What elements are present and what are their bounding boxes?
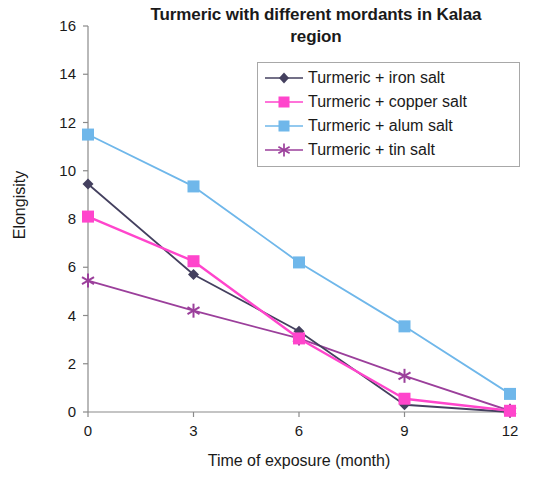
legend-marker-diamond-icon <box>263 68 305 88</box>
y-axis-tick-label: 4 <box>48 307 76 324</box>
chart-legend: Turmeric + iron salt Turmeric + copper s… <box>257 62 520 167</box>
data-point-marker <box>293 332 305 344</box>
legend-item-copper-salt: Turmeric + copper salt <box>263 90 514 114</box>
series-turmeric-alum-salt <box>82 129 516 400</box>
data-point-marker <box>188 304 200 318</box>
x-axis-tick-label: 12 <box>490 422 530 439</box>
y-axis-tick-label: 14 <box>48 65 76 82</box>
data-point-marker <box>188 255 200 267</box>
y-axis-tick-label: 10 <box>48 162 76 179</box>
legend-item-alum-salt: Turmeric + alum salt <box>263 114 514 138</box>
data-point-marker <box>82 211 94 223</box>
y-axis-tick-label: 16 <box>48 17 76 34</box>
legend-label-copper-salt: Turmeric + copper salt <box>305 93 467 111</box>
data-point-marker <box>82 274 94 288</box>
series-line <box>88 217 510 411</box>
data-point-marker <box>399 393 411 405</box>
y-axis-tick-label: 12 <box>48 114 76 131</box>
series-turmeric-tin-salt <box>82 274 516 418</box>
x-axis-tick-label: 6 <box>279 422 319 439</box>
data-point-marker <box>293 256 305 268</box>
series-turmeric-copper-salt <box>82 211 516 417</box>
data-point-marker <box>504 388 516 400</box>
x-axis-tick-label: 3 <box>174 422 214 439</box>
data-point-marker <box>188 180 200 192</box>
data-point-marker <box>399 320 411 332</box>
legend-label-tin-salt: Turmeric + tin salt <box>305 141 435 159</box>
legend-item-iron-salt: Turmeric + iron salt <box>263 66 514 90</box>
x-axis-tick-label: 9 <box>385 422 425 439</box>
x-axis-tick-label: 0 <box>68 422 108 439</box>
data-point-marker <box>399 369 411 383</box>
data-point-marker <box>504 405 516 417</box>
legend-label-alum-salt: Turmeric + alum salt <box>305 117 453 135</box>
y-axis-tick-label: 6 <box>48 258 76 275</box>
legend-marker-star-icon <box>263 140 305 160</box>
legend-label-iron-salt: Turmeric + iron salt <box>305 69 445 87</box>
y-axis-tick-label: 2 <box>48 355 76 372</box>
legend-item-tin-salt: Turmeric + tin salt <box>263 138 514 162</box>
legend-marker-square-icon <box>263 92 305 112</box>
data-point-marker <box>82 129 94 141</box>
legend-marker-square-icon <box>263 116 305 136</box>
chart-container: Turmeric with different mordants in Kala… <box>0 0 553 481</box>
y-axis-tick-label: 0 <box>48 403 76 420</box>
y-axis-tick-label: 8 <box>48 210 76 227</box>
series-line <box>88 281 510 411</box>
